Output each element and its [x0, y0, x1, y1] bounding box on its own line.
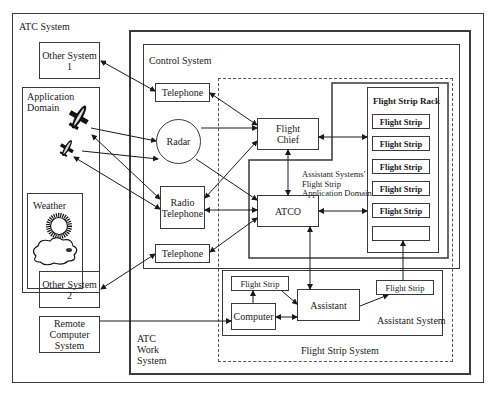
telephone-bottom-box: Telephone: [155, 244, 210, 263]
radar-label: Radar: [167, 136, 191, 147]
atc-work-system-label: ATC Work System: [137, 333, 166, 366]
atco-box: ATCO: [257, 195, 319, 227]
radar-circle: Radar: [156, 119, 201, 164]
remote-computer-system-box: Remote Computer System: [39, 316, 100, 353]
telephone-bottom-label: Telephone: [162, 248, 204, 259]
atc-system-label: ATC System: [19, 21, 70, 32]
rack-flight-strip: Flight Strip: [372, 203, 430, 218]
telephone-top-box: Telephone: [155, 83, 210, 102]
atco-label: ATCO: [275, 206, 301, 217]
other-system-1-box: Other System 1: [39, 42, 100, 79]
telephone-top-label: Telephone: [162, 87, 204, 98]
other-system-2-box: Other System 2: [39, 271, 100, 308]
rack-flight-strip: Flight Strip: [372, 114, 430, 129]
radio-telephone-box: Radio Telephone: [160, 186, 205, 229]
radio-telephone-label: Radio Telephone: [162, 197, 204, 219]
flight-strip-system-label: Flight Strip System: [301, 345, 379, 356]
flight-chief-box: Flight Chief: [257, 118, 319, 150]
rack-flight-strip: Flight Strip: [372, 136, 430, 151]
application-domain-label: Application Domain: [27, 91, 74, 113]
other-system-2-label: Other System 2: [40, 279, 99, 301]
assistant-system-label: Assistant System: [377, 315, 446, 326]
flight-chief-label: Flight Chief: [276, 123, 300, 145]
rack-flight-strip-empty: [372, 226, 430, 241]
flight-strip-rack-label: Flight Strip Rack: [373, 96, 440, 107]
remote-computer-system-label: Remote Computer System: [50, 318, 90, 351]
rack-flight-strip: Flight Strip: [372, 159, 430, 174]
assistant-flight-strip-right: Flight Strip: [376, 280, 434, 295]
computer-label: Computer: [234, 311, 274, 322]
other-system-1-label: Other System 1: [40, 50, 99, 72]
control-system-label: Control System: [149, 55, 212, 66]
rack-flight-strip: Flight Strip: [372, 181, 430, 196]
weather-label: Weather: [33, 200, 66, 211]
assistant-box: Assistant: [297, 289, 360, 321]
assistant-flight-strip-left: Flight Strip: [231, 276, 289, 291]
assistant-label: Assistant: [310, 300, 347, 311]
computer-box: Computer: [231, 303, 276, 330]
